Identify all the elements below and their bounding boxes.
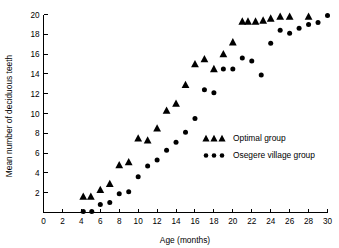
data-point [305,12,313,19]
data-point [267,14,275,21]
data-point [126,189,131,194]
data-point [202,87,207,92]
data-point [325,13,330,18]
data-point [115,161,123,168]
data-point [244,17,252,24]
y-tick-label: 2 [35,189,40,198]
x-tick-label: 0 [41,217,46,226]
data-point [98,202,103,207]
data-point [89,209,94,214]
y-tick-label: 14 [30,70,40,79]
x-tick-label: 22 [247,217,257,226]
data-point [286,12,294,19]
data-point [183,130,188,135]
data-point [134,134,142,141]
series-2-points [81,13,330,214]
y-tick-label: 12 [30,90,40,99]
data-point [155,158,160,163]
data-point [287,31,292,36]
data-point [221,66,226,71]
data-point [201,55,209,62]
series-1-points [79,12,312,199]
data-point [96,186,104,193]
x-tick-label: 26 [285,217,295,226]
legend-marker-circle [204,153,209,158]
chart-legend: Optimal groupOsegere village group [202,133,315,160]
data-point [164,148,169,153]
legend-marker-triangle [218,135,225,142]
y-tick-label: 4 [35,169,40,178]
x-tick-label: 10 [134,217,144,226]
legend-label: Osegere village group [233,150,315,160]
chart-canvas: 024681012141618202224262830 246810121416… [0,0,339,248]
x-tick-label: 8 [117,217,122,226]
x-tick-label: 20 [228,217,238,226]
data-point [268,41,273,46]
legend-marker-triangle [210,135,217,142]
x-tick-label: 24 [266,217,276,226]
data-point [81,209,86,214]
x-tick-label: 2 [60,217,65,226]
data-point [107,200,112,205]
data-point [192,116,197,121]
data-point [145,163,150,168]
x-tick-label: 6 [98,217,103,226]
x-tick-label: 16 [190,217,200,226]
x-axis-tick-labels: 024681012141618202224262830 [41,217,332,226]
y-tick-label: 20 [30,11,40,20]
data-point [191,60,199,67]
deciduous-teeth-scatter-chart: 024681012141618202224262830 246810121416… [0,0,339,248]
data-point [259,16,267,23]
data-point [230,66,235,71]
y-axis-tick-labels: 2468101214161820 [30,11,40,198]
data-point [106,180,114,187]
data-point [144,136,152,143]
legend-marker-triangle [202,135,209,142]
chart-axes: 024681012141618202224262830 246810121416… [30,11,332,226]
axis-lines [44,15,328,213]
data-point [172,100,180,107]
data-point [249,59,254,64]
legend-label: Optimal group [233,133,286,143]
data-point [125,158,133,165]
legend-marker-circle [220,153,225,158]
data-point [210,65,218,72]
data-point [252,17,260,24]
y-tick-label: 8 [35,129,40,138]
x-tick-label: 4 [79,217,84,226]
y-axis-tick-marks [44,15,48,213]
x-axis-tick-marks [44,209,328,213]
data-point [259,72,264,77]
y-tick-label: 6 [35,149,40,158]
data-point [136,174,141,179]
x-tick-label: 28 [304,217,314,226]
data-point [182,81,190,88]
y-tick-label: 16 [30,50,40,59]
data-point [240,56,245,61]
data-point [163,106,171,113]
data-point [174,140,179,145]
legend-marker-circle [212,153,217,158]
data-point [229,38,237,45]
data-point [297,26,302,31]
y-tick-label: 18 [30,30,40,39]
chart-data-points [79,12,330,214]
data-point [79,193,87,200]
x-tick-label: 30 [323,217,333,226]
x-axis-title: Age (months) [160,235,210,245]
data-point [306,22,311,27]
x-tick-label: 12 [153,217,163,226]
y-axis-title: Mean number of deciduous teeth [4,54,14,177]
x-tick-label: 14 [171,217,181,226]
data-point [219,50,227,57]
data-point [153,124,161,131]
data-point [87,193,95,200]
data-point [278,28,283,33]
data-point [316,20,321,25]
data-point [276,12,284,19]
data-point [117,191,122,196]
x-tick-label: 18 [209,217,219,226]
y-tick-label: 10 [30,110,40,119]
data-point [211,90,216,95]
